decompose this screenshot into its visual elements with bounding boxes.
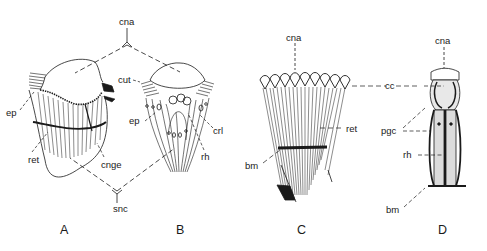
label-pgc: pgc — [381, 126, 396, 136]
label-crl: crl — [213, 126, 223, 136]
eye-diagram — [0, 0, 487, 251]
panel-c-leaders — [263, 86, 420, 163]
panel-label-d: D — [438, 224, 447, 237]
label-ep-b: ep — [129, 116, 140, 126]
panel-label-b: B — [176, 224, 184, 237]
label-rh-b: rh — [201, 152, 209, 162]
label-cna-d: cna — [435, 36, 450, 46]
junction-cna — [122, 28, 132, 47]
label-cc: cc — [385, 81, 395, 91]
label-ret-c: ret — [346, 124, 357, 134]
label-cut: cut — [118, 75, 131, 85]
label-cna-c: cna — [286, 33, 301, 43]
panel-label-a: A — [60, 224, 68, 237]
panel-label-c: C — [297, 224, 306, 237]
label-ep-a: ep — [6, 108, 17, 118]
label-bm-c: bm — [245, 161, 258, 171]
label-snc: snc — [113, 204, 128, 214]
panel-d-drawing — [428, 47, 466, 186]
label-rh-d: rh — [403, 150, 411, 160]
label-bm-d: bm — [386, 205, 399, 215]
label-cna-a: cna — [119, 17, 134, 27]
label-cnge: cnge — [101, 160, 122, 170]
junction-snc — [112, 190, 122, 203]
label-ret-a: ret — [28, 155, 39, 165]
crystalline-cones — [260, 73, 350, 90]
panel-c-drawing — [260, 43, 350, 202]
